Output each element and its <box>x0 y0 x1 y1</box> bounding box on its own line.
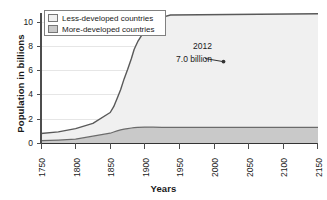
annotation-point-marker <box>222 60 226 64</box>
x-tick-label-2150: 2150 <box>314 158 324 177</box>
y-tick-label-6: 6 <box>11 65 33 75</box>
y-tick-label-10: 10 <box>11 17 33 27</box>
legend-label-less-developed: Less-developed countries <box>62 14 153 23</box>
x-tick-label-2000: 2000 <box>210 158 220 177</box>
annotation-year-label: 2012 <box>150 41 212 51</box>
y-tick-label-0: 0 <box>11 138 33 148</box>
legend-item-less-developed: Less-developed countries <box>48 13 165 23</box>
legend-item-more-developed: More-developed countries <box>48 24 165 34</box>
annotation-value-label: 7.0 billion <box>142 54 212 64</box>
legend-label-more-developed: More-developed countries <box>62 25 155 34</box>
legend-swatch-less-developed-icon <box>48 14 58 22</box>
x-tick-label-2050: 2050 <box>245 158 255 177</box>
y-tick-label-2: 2 <box>11 114 33 124</box>
x-tick-label-1850: 1850 <box>106 158 116 177</box>
x-tick-label-1950: 1950 <box>175 158 185 177</box>
x-tick-label-2100: 2100 <box>279 158 289 177</box>
y-tick-label-8: 8 <box>11 41 33 51</box>
x-tick-label-1750: 1750 <box>37 158 47 177</box>
x-axis-title: Years <box>0 183 327 194</box>
chart-legend: Less-developed countries More-developed … <box>44 10 166 36</box>
population-area-chart: Population in billions Years 10 8 6 4 2 … <box>0 0 327 200</box>
legend-swatch-more-developed-icon <box>48 25 58 33</box>
x-tick-label-1800: 1800 <box>72 158 82 177</box>
x-tick-label-1900: 1900 <box>141 158 151 177</box>
y-tick-label-4: 4 <box>11 89 33 99</box>
